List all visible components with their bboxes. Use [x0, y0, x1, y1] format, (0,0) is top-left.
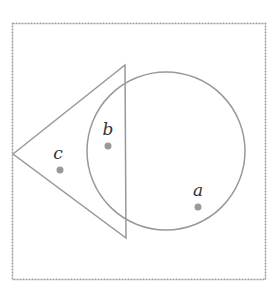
- venn-diagram: a b c: [0, 0, 274, 291]
- label-a: a: [193, 180, 203, 200]
- circle-set: [87, 72, 245, 230]
- triangle-set: [13, 65, 126, 238]
- point-a: [195, 204, 202, 211]
- point-c: [57, 167, 64, 174]
- point-b: [105, 143, 112, 150]
- label-c: c: [53, 143, 63, 163]
- universe-rectangle: [13, 24, 266, 280]
- label-b: b: [103, 119, 114, 139]
